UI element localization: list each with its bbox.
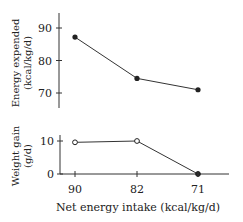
energy-y-tick-label: 70: [38, 87, 52, 100]
energy-data-point: [72, 35, 77, 40]
energy-data-point: [195, 87, 200, 92]
weight-gain-panel: 010 908271 Weight gain (g/d) Net energy …: [10, 125, 229, 214]
weight-data-point: [73, 140, 78, 145]
energy-y-axis-units: (kcal/kg/d): [22, 36, 33, 90]
energy-series-line: [75, 37, 198, 90]
energy-y-tick-label: 80: [38, 55, 52, 68]
weight-y-axis-units: (g/d): [22, 144, 33, 168]
weight-y-axis-label: Weight gain: [10, 125, 21, 186]
weight-y-tick-label: 10: [40, 135, 54, 148]
x-axis-label: Net energy intake (kcal/kg/d): [56, 201, 220, 214]
energy-y-axis-label: Energy expended: [10, 18, 21, 107]
weight-series-line: [75, 141, 198, 174]
x-tick-label: 90: [68, 183, 82, 196]
weight-y-tick-label: 0: [47, 168, 54, 181]
x-tick-label: 71: [191, 183, 205, 196]
energy-expended-panel: 708090 Energy expended (kcal/kg/d): [10, 13, 201, 108]
x-tick-label: 82: [130, 183, 144, 196]
figure: 708090 Energy expended (kcal/kg/d) 010 9…: [0, 0, 243, 222]
energy-y-tick-label: 90: [38, 22, 52, 35]
weight-data-point: [135, 139, 140, 144]
energy-data-point: [134, 76, 139, 81]
